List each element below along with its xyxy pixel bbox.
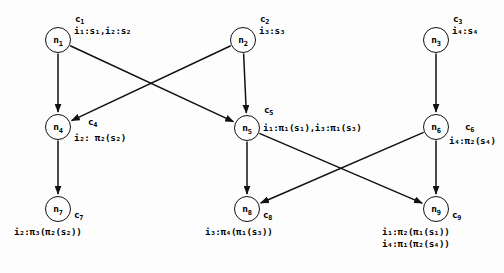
node-annotation-n9: i₁:π₂(π₁(s₁))i₄:π₁(π₂(s₄)) bbox=[382, 226, 449, 249]
node-cid-n6: c6 bbox=[465, 122, 474, 131]
node-label-n6: n6 bbox=[431, 122, 440, 132]
node-cid-n4: c4 bbox=[88, 117, 97, 126]
edge-n2-to-n5 bbox=[244, 53, 247, 113]
node-n4[interactable]: n4 bbox=[45, 114, 71, 140]
node-label-n4: n4 bbox=[53, 122, 62, 132]
node-cid-n2: c2 bbox=[260, 14, 269, 23]
node-label-n5: n5 bbox=[242, 123, 251, 133]
node-label-n8: n8 bbox=[242, 204, 251, 214]
annotation-line: i₂:π₃(π₂(s₂)) bbox=[14, 226, 81, 238]
node-n9[interactable]: n9 bbox=[423, 196, 449, 222]
annotation-line: i₃:s₃ bbox=[259, 25, 285, 37]
annotation-line: i₁:π₂(π₁(s₁)) bbox=[382, 226, 449, 238]
node-cid-n3: c3 bbox=[453, 14, 462, 23]
node-annotation-n2: i₃:s₃ bbox=[259, 25, 285, 37]
node-n1[interactable]: n1 bbox=[45, 27, 71, 53]
node-cid-n8: c8 bbox=[263, 210, 272, 219]
annotation-line: i₁:π₁(s₁),i₃:π₁(s₃) bbox=[263, 122, 361, 134]
node-n2[interactable]: n2 bbox=[230, 27, 256, 53]
node-n8[interactable]: n8 bbox=[234, 196, 260, 222]
node-cid-n5: c5 bbox=[264, 105, 273, 114]
node-label-n3: n3 bbox=[431, 35, 440, 45]
node-annotation-n3: i₄:s₄ bbox=[452, 25, 478, 37]
node-annotation-n6: i₄:π₂(s₄) bbox=[449, 135, 496, 147]
node-annotation-n7: i₂:π₃(π₂(s₂)) bbox=[14, 226, 81, 238]
annotation-line: i₄:π₂(s₄) bbox=[449, 135, 496, 147]
node-annotation-n8: i₃:π₄(π₁(s₃)) bbox=[205, 226, 272, 238]
annotation-line: i₂: π₂(s₂) bbox=[74, 132, 126, 144]
node-n5[interactable]: n5 bbox=[234, 115, 260, 141]
node-n7[interactable]: n7 bbox=[45, 196, 71, 222]
node-cid-n9: c9 bbox=[452, 210, 461, 219]
annotation-line: i₁:s₁,i₂:s₂ bbox=[74, 25, 131, 37]
node-n6[interactable]: n6 bbox=[423, 114, 449, 140]
annotation-line: i₄:π₁(π₂(s₄)) bbox=[382, 238, 449, 250]
node-annotation-n4: i₂: π₂(s₂) bbox=[74, 132, 126, 144]
node-n3[interactable]: n3 bbox=[423, 27, 449, 53]
node-annotation-n1: i₁:s₁,i₂:s₂ bbox=[74, 25, 131, 37]
node-cid-n1: c1 bbox=[75, 14, 84, 23]
annotation-line: i₄:s₄ bbox=[452, 25, 478, 37]
annotation-line: i₃:π₄(π₁(s₃)) bbox=[205, 226, 272, 238]
node-label-n1: n1 bbox=[53, 35, 62, 45]
graph-diagram: n1n2n3n4n5n6n7n8n9 c1i₁:s₁,i₂:s₂c2i₃:s₃c… bbox=[0, 0, 504, 273]
node-label-n7: n7 bbox=[53, 204, 62, 214]
node-label-n2: n2 bbox=[238, 35, 247, 45]
node-label-n9: n9 bbox=[431, 204, 440, 214]
node-annotation-n5: i₁:π₁(s₁),i₃:π₁(s₃) bbox=[263, 122, 361, 134]
node-cid-n7: c7 bbox=[74, 210, 83, 219]
